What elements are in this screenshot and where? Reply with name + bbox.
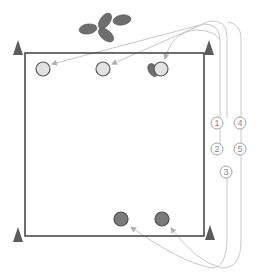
player-light-icon <box>36 62 50 76</box>
player-light-icon <box>96 62 110 76</box>
players-dark <box>114 212 169 226</box>
sequence-label-2: 2 <box>211 143 223 155</box>
path-to-player-light-2 <box>112 21 227 118</box>
path-right-outer <box>228 22 241 118</box>
svg-text:2: 2 <box>214 144 219 154</box>
svg-text:1: 1 <box>214 118 219 128</box>
sequence-label-4: 4 <box>234 117 246 129</box>
svg-text:3: 3 <box>223 167 228 177</box>
cone-icon <box>13 40 23 55</box>
football-pile-icon <box>78 11 131 45</box>
drill-diagram: 1 4 2 5 3 <box>0 0 259 280</box>
path-to-player-light-1 <box>52 24 220 118</box>
player-dark-icon <box>114 212 128 226</box>
players-light <box>36 62 168 79</box>
cone-icon <box>204 40 214 55</box>
field-boundary <box>25 53 204 236</box>
svg-text:5: 5 <box>237 144 242 154</box>
player-dark-icon <box>155 212 169 226</box>
sequence-label-3: 3 <box>220 166 232 178</box>
cone-icon <box>205 225 215 240</box>
sequence-label-5: 5 <box>234 143 246 155</box>
svg-text:4: 4 <box>237 118 242 128</box>
cone-icon <box>13 227 23 242</box>
sequence-label-1: 1 <box>211 117 223 129</box>
player-light-icon <box>154 62 168 76</box>
path-lower-1 <box>131 178 227 268</box>
